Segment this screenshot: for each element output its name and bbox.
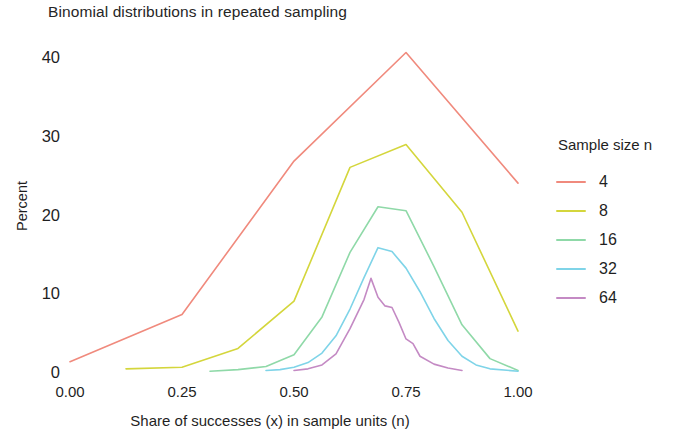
legend-color-swatch xyxy=(556,210,586,212)
legend-item[interactable]: 32 xyxy=(556,254,680,283)
legend-color-swatch xyxy=(556,268,586,270)
x-axis-tick-label: 0.75 xyxy=(391,383,420,400)
legend-title: Sample size n xyxy=(558,136,680,153)
x-axis-tick-label: 0.00 xyxy=(55,383,84,400)
y-axis-tick-label: 10 xyxy=(20,284,60,303)
legend-item[interactable]: 16 xyxy=(556,225,680,254)
legend: Sample size n 48163264 xyxy=(556,136,680,312)
y-axis-tick-label: 40 xyxy=(20,48,60,67)
series-line xyxy=(294,278,462,370)
series-lines xyxy=(70,52,518,371)
chart-root: Binomial distributions in repeated sampl… xyxy=(0,0,680,439)
x-axis-ticks: 0.000.250.500.751.00 xyxy=(0,383,540,405)
legend-entries: 48163264 xyxy=(556,167,680,312)
x-axis-tick-label: 1.00 xyxy=(503,383,532,400)
y-axis-tick-label: 30 xyxy=(20,126,60,145)
x-axis-tick-label: 0.25 xyxy=(167,383,196,400)
chart-plot-svg xyxy=(0,0,540,400)
legend-item[interactable]: 64 xyxy=(556,283,680,312)
plot-area: 010203040 0.000.250.500.751.00 Share of … xyxy=(0,0,540,400)
series-line xyxy=(126,145,518,369)
legend-item-label: 16 xyxy=(599,232,617,248)
y-axis-tick-label: 0 xyxy=(20,363,60,382)
legend-item[interactable]: 8 xyxy=(556,196,680,225)
legend-item[interactable]: 4 xyxy=(556,167,680,196)
x-axis-label: Share of successes (x) in sample units (… xyxy=(0,412,540,429)
series-line xyxy=(70,52,518,361)
x-axis-tick-label: 0.50 xyxy=(279,383,308,400)
legend-item-label: 4 xyxy=(599,174,608,190)
legend-item-label: 32 xyxy=(599,261,617,277)
legend-item-label: 8 xyxy=(599,203,608,219)
legend-item-label: 64 xyxy=(599,290,617,306)
series-line xyxy=(266,248,518,372)
legend-color-swatch xyxy=(556,181,586,183)
y-axis-label: Percent xyxy=(14,156,30,256)
legend-color-swatch xyxy=(556,297,586,299)
legend-color-swatch xyxy=(556,239,586,241)
